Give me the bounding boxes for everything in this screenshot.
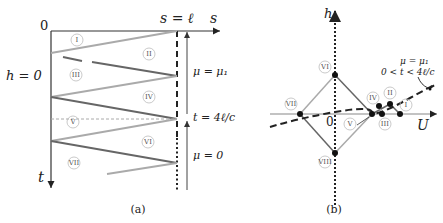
region-II-label-b: II — [387, 89, 393, 97]
panel-a: I II III IV V VI VII 0 s = ℓ s t h = 0 μ… — [6, 10, 235, 216]
region-III-label: III — [72, 71, 81, 79]
boundary-label: s = ℓ — [160, 10, 194, 26]
region-VII-label-b: VII — [285, 100, 297, 108]
origin-label-a: 0 — [40, 18, 48, 33]
s-axis-label: s — [210, 10, 217, 26]
annotation-mu1: μ = μ₁ — [400, 56, 429, 66]
h-zero-label: h = 0 — [6, 68, 42, 83]
mu1-label: μ = μ₁ — [193, 65, 228, 78]
t-4l-c-label: t = 4ℓ/c — [193, 111, 235, 124]
caption-a: (a) — [130, 203, 145, 216]
region-VI-label: VI — [143, 138, 152, 146]
t-axis-label: t — [38, 168, 45, 186]
region-III-label-b: III — [381, 120, 390, 128]
region-IV-label-b: IV — [369, 94, 378, 102]
annotation-time-range: 0 < t < 4ℓ/c — [381, 67, 434, 77]
region-I-label: I — [76, 36, 79, 44]
region-V-label-b: V — [346, 120, 353, 128]
region-VII-label: VII — [68, 159, 80, 167]
region-VIII-label-b: VIII — [317, 158, 332, 166]
panel-b: I II III IV V VI VII VIII h U 0 μ = μ₁ 0… — [270, 6, 437, 216]
caption-b: (b) — [326, 203, 342, 216]
region-I-label-b: I — [405, 101, 408, 109]
U-axis-label: U — [417, 117, 430, 133]
region-II-label: II — [146, 50, 152, 58]
origin-label-b: 0 — [326, 115, 334, 129]
region-IV-label: IV — [145, 93, 154, 101]
figure: I II III IV V VI VII 0 s = ℓ s t h = 0 μ… — [0, 0, 443, 223]
h-axis-label: h — [324, 6, 332, 21]
region-V-label: V — [69, 118, 76, 126]
mu0-label: μ = 0 — [193, 149, 223, 162]
region-VI-label-b: VI — [320, 63, 329, 71]
